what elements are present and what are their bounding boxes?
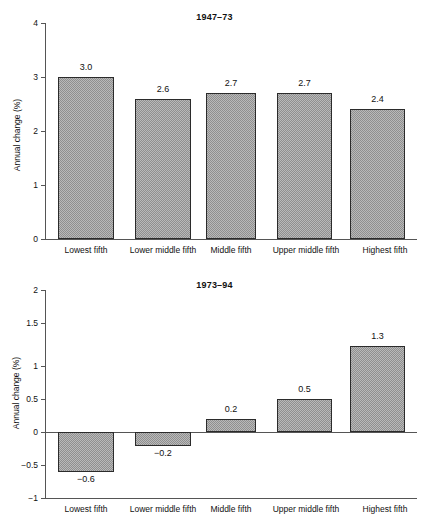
y-tick-label-2-0: −1 (5, 493, 38, 503)
y-tick-label-1-1: 1 (14, 180, 38, 190)
y-tick-mark-2-6 (41, 290, 45, 291)
y-tick-label-2-6: 2 (8, 285, 38, 295)
x-cat-label-2-1: Lower middle fifth (118, 504, 208, 514)
figure-page: { "chart_data": [ { "type": "bar", "titl… (0, 0, 429, 526)
x-axis-line-2 (45, 498, 417, 499)
bar-1-4 (350, 109, 405, 239)
y-tick-mark-2-2 (41, 432, 45, 433)
y-axis-line-1 (45, 23, 46, 240)
y-tick-mark-1-0 (41, 239, 45, 240)
bar-value-2-1: −0.2 (135, 448, 191, 458)
x-cat-label-2-0: Lowest fifth (51, 504, 121, 514)
bar-value-2-0: −0.6 (58, 474, 114, 484)
y-tick-label-1-2: 2 (14, 126, 38, 136)
y-tick-label-2-5: 1.5 (8, 318, 38, 328)
y-tick-mark-1-4 (41, 23, 45, 24)
y-tick-mark-1-3 (41, 77, 45, 78)
y-tick-label-1-0: 0 (14, 234, 38, 244)
x-axis-line-1 (45, 239, 417, 240)
bar-value-1-3: 2.7 (277, 78, 332, 88)
y-axis-line-2 (45, 290, 46, 498)
x-cat-label-2-3: Upper middle fifth (261, 504, 351, 514)
x-cat-label-1-3: Upper middle fifth (261, 245, 351, 255)
y-tick-label-2-4: 1 (8, 361, 38, 371)
bar-2-0 (58, 432, 114, 472)
y-tick-mark-1-1 (41, 185, 45, 186)
y-tick-mark-2-4 (41, 366, 45, 367)
x-cat-label-1-0: Lowest fifth (51, 245, 121, 255)
y-tick-label-2-1: −0.5 (5, 460, 38, 470)
y-tick-label-2-2: 0 (8, 427, 38, 437)
bar-2-4 (350, 346, 405, 432)
chart-title-2: 1973–94 (0, 280, 429, 290)
bar-1-1 (135, 99, 191, 239)
y-tick-label-1-4: 4 (14, 18, 38, 28)
bar-1-0 (58, 77, 114, 239)
y-tick-mark-2-3 (41, 399, 45, 400)
bar-value-2-4: 1.3 (350, 331, 405, 341)
bar-value-1-1: 2.6 (135, 84, 191, 94)
x-cat-label-2-2: Middle fifth (196, 504, 266, 514)
x-cat-label-2-4: Highest fifth (348, 504, 422, 514)
bar-2-3 (277, 399, 332, 432)
bar-1-3 (277, 93, 332, 239)
x-cat-label-1-2: Middle fifth (196, 245, 266, 255)
y-tick-label-2-3: 0.5 (8, 394, 38, 404)
y-tick-mark-2-1 (41, 465, 45, 466)
y-tick-mark-2-5 (41, 323, 45, 324)
bar-value-1-0: 3.0 (58, 62, 114, 72)
bar-value-2-2: 0.2 (206, 404, 256, 414)
y-tick-label-1-3: 3 (14, 72, 38, 82)
bar-1-2 (206, 93, 256, 239)
chart-title-1: 1947–73 (0, 12, 429, 22)
bar-value-1-4: 2.4 (350, 94, 405, 104)
bar-2-1 (135, 432, 191, 446)
chart-panel-1947-73: 1947–73 Annual change (%) 4 3 2 1 0 3.0 … (0, 0, 429, 263)
bar-value-2-3: 0.5 (277, 384, 332, 394)
bar-value-1-2: 2.7 (206, 78, 256, 88)
chart-panel-1973-94: 1973–94 Annual change (%) 2 1.5 1 0.5 0 … (0, 263, 429, 526)
bar-2-2 (206, 419, 256, 432)
x-cat-label-1-4: Highest fifth (348, 245, 422, 255)
x-cat-label-1-1: Lower middle fifth (118, 245, 208, 255)
y-tick-mark-2-0 (41, 498, 45, 499)
y-tick-mark-1-2 (41, 131, 45, 132)
